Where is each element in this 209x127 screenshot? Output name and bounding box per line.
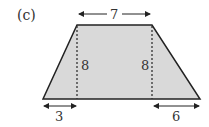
bottom-left-offset-label: 3 — [55, 109, 63, 124]
left-height-label: 8 — [81, 58, 89, 73]
part-label: (c) — [17, 7, 36, 23]
top-length-label: 7 — [110, 7, 118, 22]
right-height-label: 8 — [141, 58, 149, 73]
bottom-right-offset-label: 6 — [172, 109, 180, 124]
trapezoid-shape — [43, 25, 200, 99]
trapezoid-diagram: (c) 8 8 7 3 6 — [0, 0, 209, 127]
